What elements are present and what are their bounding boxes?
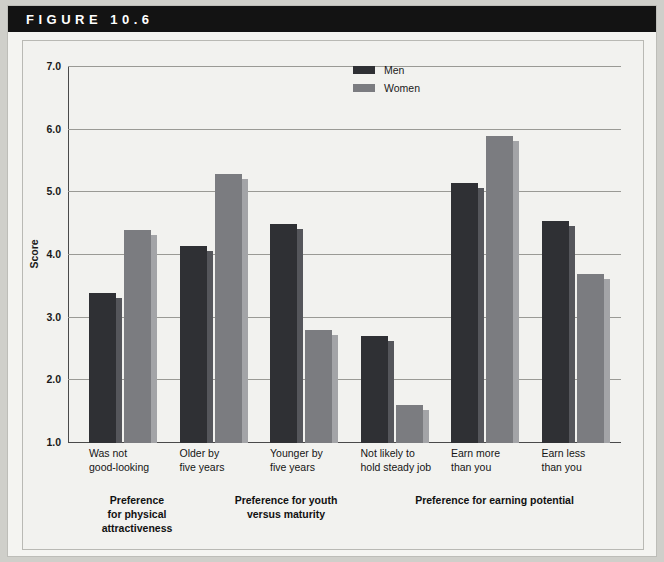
bar-women-5 [486,136,513,443]
group-caption: Preference for youth versus maturity [186,493,386,521]
figure-banner: FIGURE 10.6 [8,6,656,32]
bar-side-shadow [297,229,303,443]
category-label: Was not good-looking [89,447,149,474]
bar-side-shadow [569,226,575,443]
y-tick-label: 1.0 [46,436,61,448]
category-label: Earn less than you [542,447,586,474]
group-caption: Preference for earning potential [368,493,621,507]
bar-side-shadow [478,188,484,443]
figure-number-label: FIGURE 10.6 [26,12,154,27]
legend-item-men: Men [353,63,420,77]
bar-group [89,66,159,443]
chart-panel: Score 1.02.03.04.05.06.07.0 Men Women Wa… [22,40,644,550]
category-label: Younger by five years [270,447,323,474]
bar-series-container [68,66,621,443]
legend-label-women: Women [384,82,420,94]
bar-women-4 [396,405,423,443]
category-labels: Was not good-lookingOlder by five yearsY… [68,447,621,487]
bar-side-shadow [242,179,248,443]
bar-face [577,274,604,443]
bar-women-1 [124,230,151,443]
bar-group [361,66,431,443]
bar-men-4 [361,336,388,443]
bar-face [396,405,423,443]
bar-men-1 [89,293,116,443]
bar-men-5 [451,183,478,443]
category-label: Earn more than you [451,447,500,474]
bar-group [451,66,521,443]
legend-swatch-men [353,66,375,74]
bar-side-shadow [207,251,213,443]
bar-men-6 [542,221,569,443]
bar-face [486,136,513,443]
bar-face [270,224,297,443]
y-tick-label: 2.0 [46,373,61,385]
y-tick-label: 3.0 [46,311,61,323]
bar-face [542,221,569,443]
bar-men-3 [270,224,297,443]
y-tick-label: 6.0 [46,123,61,135]
group-captions: Preference for physical attractivenessPr… [68,493,621,543]
bar-group [542,66,612,443]
figure-page: FIGURE 10.6 Score 1.02.03.04.05.06.07.0 … [0,0,664,562]
bar-side-shadow [513,141,519,443]
bar-women-6 [577,274,604,443]
bar-face [305,330,332,443]
bar-face [124,230,151,443]
bar-women-3 [305,330,332,443]
bar-face [451,183,478,443]
bar-group [270,66,340,443]
bar-women-2 [215,174,242,443]
y-tick-label: 5.0 [46,185,61,197]
plot-area: Score 1.02.03.04.05.06.07.0 [68,66,621,442]
bar-face [215,174,242,443]
bar-side-shadow [116,298,122,443]
legend-item-women: Women [353,81,420,95]
legend-label-men: Men [384,64,404,76]
bar-group [180,66,250,443]
legend-swatch-women [353,84,375,92]
y-tick-label: 4.0 [46,248,61,260]
bar-side-shadow [604,279,610,443]
group-caption: Preference for physical attractiveness [82,493,192,535]
category-label: Not likely to hold steady job [361,447,432,474]
y-tick-label: 7.0 [46,60,61,72]
category-label: Older by five years [180,447,225,474]
bar-face [180,246,207,443]
bar-face [361,336,388,443]
bar-face [89,293,116,443]
bar-side-shadow [423,410,429,443]
y-axis-title: Score [28,239,40,268]
bar-men-2 [180,246,207,443]
legend: Men Women [353,63,420,99]
bar-side-shadow [332,335,338,443]
bar-side-shadow [151,235,157,443]
bar-side-shadow [388,341,394,443]
